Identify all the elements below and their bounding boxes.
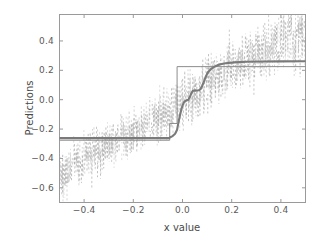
xtick-label-2: 0.0: [175, 205, 190, 215]
ytick-label-0: 0.4: [26, 36, 54, 46]
chart-figure: 0.4 0.2 0.0 −0.2 −0.4 −0.6 −0.4 −0.2 0.0…: [0, 0, 315, 244]
ytick-label-1: 0.2: [26, 65, 54, 75]
xtick-label-4: 0.4: [273, 205, 288, 215]
ytick-label-4: −0.4: [26, 153, 54, 163]
xtick-label-1: −0.2: [122, 205, 145, 215]
ytick-label-5: −0.6: [26, 183, 54, 193]
xtick-label-0: −0.4: [73, 205, 96, 215]
xtick-label-3: 0.2: [224, 205, 239, 215]
x-axis-title: x value: [164, 222, 200, 233]
y-axis-title: Predictions: [24, 81, 35, 136]
